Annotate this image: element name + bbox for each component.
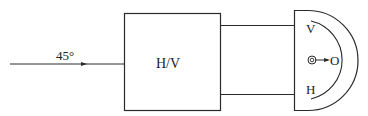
block-label: H/V	[156, 56, 180, 71]
pivot-inner-icon	[310, 58, 314, 62]
angle-label: 45°	[56, 48, 74, 63]
connector	[220, 26, 294, 95]
arrow-right-icon	[81, 62, 87, 66]
detector-head: V H O	[295, 11, 359, 111]
label-h: H	[306, 82, 315, 97]
label-v: V	[306, 21, 316, 36]
main-block: H/V	[125, 14, 221, 111]
input-beam: 45°	[10, 48, 124, 66]
label-o: O	[330, 53, 339, 68]
diagram-canvas: 45° H/V V H O	[0, 0, 368, 116]
pivot-outer-icon	[308, 56, 316, 64]
